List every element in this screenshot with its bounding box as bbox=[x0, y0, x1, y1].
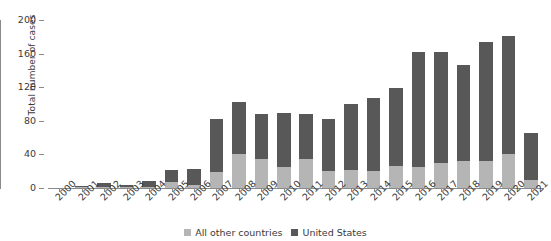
y-axis-tick-label: 160 bbox=[18, 48, 36, 59]
y-axis-tick-mark bbox=[39, 188, 44, 189]
bar-stack[interactable] bbox=[299, 114, 312, 188]
bar-stack[interactable] bbox=[479, 42, 492, 188]
bar-stack[interactable] bbox=[210, 119, 223, 188]
bar-stack[interactable] bbox=[232, 102, 245, 188]
bar-stack[interactable] bbox=[367, 98, 380, 188]
legend-swatch-icon bbox=[291, 229, 298, 236]
y-axis-tick-mark bbox=[39, 54, 44, 55]
bar-stack[interactable] bbox=[322, 119, 335, 188]
bar-segment-united-states[interactable] bbox=[322, 119, 335, 171]
bar-segment-united-states[interactable] bbox=[299, 114, 312, 159]
bar-segment-united-states[interactable] bbox=[434, 52, 447, 163]
bar-stack[interactable] bbox=[389, 88, 402, 188]
legend-swatch-icon bbox=[184, 229, 191, 236]
bar-segment-united-states[interactable] bbox=[367, 98, 380, 171]
plot-area bbox=[48, 20, 542, 188]
y-axis-tick-label: 0 bbox=[30, 182, 36, 193]
y-axis-tick: 200 bbox=[0, 20, 48, 21]
bar-segment-united-states[interactable] bbox=[165, 170, 178, 183]
y-axis-tick: 80 bbox=[0, 121, 48, 122]
bar-stack[interactable] bbox=[255, 114, 268, 188]
y-axis-tick-label: 120 bbox=[18, 81, 36, 92]
y-axis-tick-mark bbox=[39, 87, 44, 88]
y-axis-tick: 160 bbox=[0, 54, 48, 55]
y-axis-tick-label: 80 bbox=[24, 115, 36, 126]
y-axis-tick: 120 bbox=[0, 87, 48, 88]
bar-segment-united-states[interactable] bbox=[255, 114, 268, 159]
legend-item[interactable]: All other countries bbox=[184, 227, 282, 238]
bar-segment-united-states[interactable] bbox=[389, 88, 402, 166]
chart-figure: Total number of cases 04080120160200 200… bbox=[0, 0, 551, 241]
bar-segment-united-states[interactable] bbox=[210, 119, 223, 172]
bar-stack[interactable] bbox=[277, 113, 290, 188]
bar-segment-united-states[interactable] bbox=[502, 36, 515, 154]
bar-segment-united-states[interactable] bbox=[187, 169, 200, 185]
y-axis-tick-mark bbox=[39, 20, 44, 21]
bar-stack[interactable] bbox=[502, 36, 515, 188]
chart-legend: All other countriesUnited States bbox=[0, 227, 551, 238]
y-axis-tick: 0 bbox=[0, 188, 48, 189]
bar-segment-united-states[interactable] bbox=[344, 104, 357, 170]
y-axis-line bbox=[0, 20, 1, 189]
bar-stack[interactable] bbox=[344, 104, 357, 188]
bar-stack[interactable] bbox=[434, 52, 447, 188]
bar-stack[interactable] bbox=[457, 65, 470, 188]
bar-segment-united-states[interactable] bbox=[524, 133, 537, 179]
bar-segment-united-states[interactable] bbox=[277, 113, 290, 167]
y-axis-tick-mark bbox=[39, 121, 44, 122]
bar-segment-united-states[interactable] bbox=[479, 42, 492, 161]
y-axis-tick-mark bbox=[39, 154, 44, 155]
bar-segment-united-states[interactable] bbox=[457, 65, 470, 161]
legend-label: All other countries bbox=[195, 227, 282, 238]
legend-label: United States bbox=[302, 227, 366, 238]
y-axis-tick-label: 200 bbox=[18, 14, 36, 25]
y-axis-tick: 40 bbox=[0, 154, 48, 155]
bar-stack[interactable] bbox=[412, 52, 425, 188]
bar-segment-united-states[interactable] bbox=[412, 52, 425, 167]
y-axis-tick-label: 40 bbox=[24, 148, 36, 159]
bar-stack[interactable] bbox=[524, 133, 537, 188]
legend-item[interactable]: United States bbox=[291, 227, 366, 238]
bar-segment-united-states[interactable] bbox=[232, 102, 245, 154]
